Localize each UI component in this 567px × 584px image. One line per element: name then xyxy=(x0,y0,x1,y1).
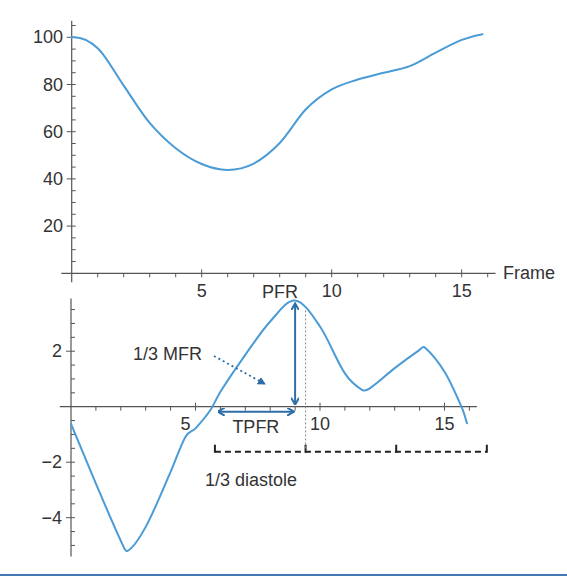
y-tick-label: −2 xyxy=(41,452,62,472)
x-tick-label: 15 xyxy=(434,414,454,434)
y-tick-label: 40 xyxy=(43,169,63,189)
x-tick-label: 5 xyxy=(197,281,207,301)
chart-svg: 5101520406080100 51015−4−22 Frame PFR TP… xyxy=(0,0,567,584)
x-tick-label: 10 xyxy=(322,281,342,301)
y-tick-label: 20 xyxy=(43,216,63,236)
y-tick-label: 80 xyxy=(43,75,63,95)
diastole-label: 1/3 diastole xyxy=(205,470,297,490)
mfr-label: 1/3 MFR xyxy=(133,344,202,364)
mfr-dotted-arrow xyxy=(214,356,265,384)
pfr-label: PFR xyxy=(262,282,298,302)
x-tick-label: 15 xyxy=(452,281,472,301)
x-axis-label-frame: Frame xyxy=(503,263,555,283)
y-tick-label: 2 xyxy=(52,341,62,361)
volume-chart: 5101520406080100 xyxy=(33,21,496,301)
series-line-volume xyxy=(72,34,483,170)
y-tick-label: 60 xyxy=(43,122,63,142)
y-tick-label: −4 xyxy=(41,508,62,528)
tpfr-label: TPFR xyxy=(232,417,279,437)
figure: 5101520406080100 51015−4−22 Frame PFR TP… xyxy=(0,0,567,584)
x-tick-label: 10 xyxy=(310,414,330,434)
x-tick-label: 5 xyxy=(180,414,190,434)
y-tick-label: 100 xyxy=(33,27,63,47)
bottom-rule-divider xyxy=(0,574,567,576)
